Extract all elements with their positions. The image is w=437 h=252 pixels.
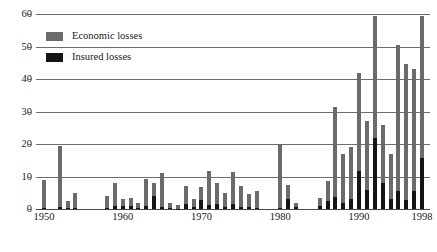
insured-losses-swatch: [46, 53, 63, 62]
insured-loss-bar-1965: [160, 207, 164, 209]
bar-1994: [389, 14, 393, 209]
economic-loss-bar-1974: [231, 172, 235, 209]
y-tick-mark-30: [28, 112, 32, 113]
insured-loss-bar-1974: [231, 204, 235, 209]
insured-loss-bar-1975: [239, 207, 243, 209]
y-tick-mark-40: [28, 79, 32, 80]
insured-loss-bar-1977: [255, 208, 259, 209]
insured-loss-bar-1986: [326, 201, 330, 209]
insured-loss-bar-1981: [286, 199, 290, 209]
economic-loss-bar-1954: [73, 193, 77, 209]
bar-1995: [396, 14, 400, 209]
insured-loss-bar-1966: [168, 208, 172, 209]
insured-loss-bar-1989: [349, 199, 353, 209]
bar-1975: [239, 14, 243, 209]
insured-loss-bar-1952: [58, 207, 62, 209]
x-tick-label-1990: 1990: [349, 212, 370, 223]
bar-1991: [365, 14, 369, 209]
legend-label: Economic losses: [72, 31, 142, 42]
axis-baseline: [36, 209, 430, 210]
economic-loss-bar-1963: [144, 179, 148, 209]
economic-loss-bar-1975: [239, 186, 243, 209]
insured-loss-bar-1960: [121, 206, 125, 209]
insured-loss-bar-1993: [381, 183, 385, 209]
x-axis: 195019601970198019901998: [36, 212, 430, 230]
y-tick-mark-60: [28, 14, 32, 15]
y-tick-mark-10: [28, 177, 32, 178]
insured-loss-bar-1958: [105, 208, 109, 209]
insured-loss-bar-1964: [152, 196, 156, 209]
insured-loss-bar-1962: [136, 208, 140, 209]
economic-loss-bar-1971: [207, 171, 211, 209]
bar-1970: [199, 14, 203, 209]
insured-loss-bar-1995: [396, 191, 400, 209]
legend-item-economic-losses: Economic losses: [46, 28, 196, 45]
insured-loss-bar-1969: [192, 207, 196, 209]
bar-1992: [373, 14, 377, 209]
insured-loss-bar-1968: [184, 204, 188, 209]
insured-loss-bar-1997: [412, 191, 416, 209]
insured-loss-bar-1953: [66, 208, 70, 209]
economic-loss-bar-1950: [42, 180, 46, 209]
insured-loss-bar-1988: [341, 203, 345, 209]
economic-loss-bar-1995: [396, 45, 400, 209]
legend-label: Insured losses: [72, 52, 131, 63]
insured-loss-bar-1959: [113, 206, 117, 209]
bar-chart: 0102030405060 195019601970198019901998 E…: [0, 0, 437, 252]
insured-loss-bar-1980: [278, 208, 282, 209]
insured-loss-bar-1976: [247, 207, 251, 209]
bar-1985: [318, 14, 322, 209]
bar-1980: [278, 14, 282, 209]
y-tick-mark-50: [28, 47, 32, 48]
economic-loss-bar-1952: [58, 146, 62, 209]
bar-1990: [357, 14, 361, 209]
x-tick-label-1970: 1970: [191, 212, 212, 223]
economic-loss-bar-1980: [278, 144, 282, 209]
chart-legend: Economic lossesInsured losses: [46, 28, 196, 70]
economic-loss-bar-1988: [341, 154, 345, 209]
insured-loss-bar-1961: [129, 206, 133, 209]
insured-loss-bar-1991: [365, 190, 369, 210]
economic-loss-bar-1977: [255, 191, 259, 209]
bar-1982: [294, 14, 298, 209]
bar-1997: [412, 14, 416, 209]
bar-1987: [333, 14, 337, 209]
insured-loss-bar-1987: [333, 197, 337, 209]
bar-1989: [349, 14, 353, 209]
bar-1972: [215, 14, 219, 209]
bar-1996: [404, 14, 408, 209]
insured-loss-bar-1982: [294, 207, 298, 209]
insured-loss-bar-1998: [420, 158, 424, 209]
bar-1974: [231, 14, 235, 209]
economic-loss-bar-1997: [412, 69, 416, 209]
insured-loss-bar-1996: [404, 200, 408, 209]
economic-loss-bar-1987: [333, 107, 337, 209]
bar-1998: [420, 14, 424, 209]
x-tick-label-1998: 1998: [412, 212, 433, 223]
economic-loss-bar-1996: [404, 64, 408, 209]
insured-loss-bar-1992: [373, 138, 377, 210]
bar-1976: [247, 14, 251, 209]
insured-loss-bar-1950: [42, 208, 46, 209]
x-tick-label-1950: 1950: [33, 212, 54, 223]
legend-item-insured-losses: Insured losses: [46, 49, 196, 66]
insured-loss-bar-1972: [215, 204, 219, 209]
insured-loss-bar-1990: [357, 171, 361, 209]
y-axis: 0102030405060: [0, 14, 32, 209]
y-tick-mark-20: [28, 144, 32, 145]
insured-loss-bar-1994: [389, 199, 393, 209]
bar-1993: [381, 14, 385, 209]
bar-1986: [326, 14, 330, 209]
insured-loss-bar-1970: [199, 200, 203, 209]
bar-1988: [341, 14, 345, 209]
economic-loss-bar-1959: [113, 183, 117, 209]
economic-losses-swatch: [46, 32, 63, 41]
insured-loss-bar-1971: [207, 205, 211, 209]
insured-loss-bar-1973: [223, 207, 227, 209]
x-tick-label-1980: 1980: [270, 212, 291, 223]
economic-loss-bar-1965: [160, 173, 164, 209]
insured-loss-bar-1954: [73, 208, 77, 209]
insured-loss-bar-1985: [318, 206, 322, 209]
x-tick-label-1960: 1960: [112, 212, 133, 223]
bar-1977: [255, 14, 259, 209]
